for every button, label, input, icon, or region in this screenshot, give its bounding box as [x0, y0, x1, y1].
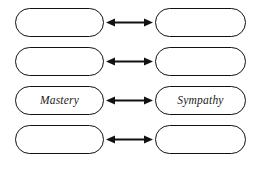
diagram-row: [0, 8, 262, 39]
double-headed-arrow-icon: [104, 8, 155, 37]
diagram-row: Mastery Sympathy: [0, 86, 262, 117]
concept-node-left[interactable]: [15, 8, 104, 37]
concept-node-left[interactable]: [15, 125, 104, 154]
concept-node-sympathy[interactable]: Sympathy: [155, 86, 246, 115]
concept-node-right[interactable]: [155, 125, 246, 154]
concept-node-left[interactable]: [15, 47, 104, 76]
concept-node-label: Sympathy: [177, 95, 223, 107]
diagram-row: [0, 47, 262, 78]
double-headed-arrow-icon: [104, 86, 155, 115]
double-headed-arrow-icon: [104, 125, 155, 154]
concept-node-label: Mastery: [40, 95, 79, 107]
concept-node-right[interactable]: [155, 8, 246, 37]
double-headed-arrow-icon: [104, 47, 155, 76]
diagram-canvas: Mastery Sympathy: [0, 0, 262, 169]
concept-node-right[interactable]: [155, 47, 246, 76]
diagram-row: [0, 125, 262, 156]
concept-node-mastery[interactable]: Mastery: [15, 86, 104, 115]
